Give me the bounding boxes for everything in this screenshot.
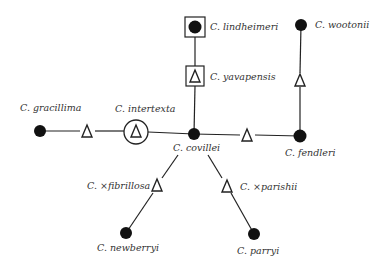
- node-newberryi: [120, 227, 132, 239]
- edge-fibrillosa-newberryi: [126, 193, 153, 233]
- node-parryi: [248, 228, 260, 240]
- node-gracillima: [34, 125, 46, 137]
- node-parishii: [222, 180, 232, 192]
- hybrid-delta-covillei-fendleri: [242, 129, 252, 141]
- node-yavapensis: [186, 66, 204, 86]
- edges: [40, 25, 301, 234]
- filled-circle-icon: [189, 21, 202, 34]
- node-lindheimeri: [185, 17, 205, 37]
- edge-wootonii-delta: [300, 25, 301, 73]
- label-yavapensis: C. yavapensis: [210, 72, 276, 82]
- edge-covillei-delta: [194, 134, 240, 135]
- node-intertexta: [124, 120, 148, 144]
- edge-parishii-parryi: [231, 193, 254, 234]
- edge-covillei-fibrillosa: [162, 155, 178, 178]
- hybrid-delta-gracillima-intertexta: [82, 125, 92, 137]
- species-network-diagram: C. lindheimeri C. yavapensis C. wootonii…: [0, 0, 374, 270]
- label-intertexta: C. intertexta: [115, 104, 175, 114]
- node-fibrillosa: [152, 179, 162, 191]
- network-graphic: [0, 0, 374, 270]
- label-parishii: C. ×parishii: [240, 182, 297, 192]
- label-parryi: C. parryi: [237, 246, 279, 256]
- node-covillei: [188, 128, 200, 140]
- node-wootonii: [295, 19, 307, 31]
- edge-covillei-parishii: [208, 155, 222, 178]
- label-fibrillosa: C. ×fibrillosa: [87, 181, 150, 191]
- edge-intertexta-covillei: [148, 132, 194, 134]
- label-covillei: C. covillei: [173, 143, 220, 153]
- edge-yavapensis-covillei: [194, 86, 195, 134]
- label-lindheimeri: C. lindheimeri: [210, 22, 278, 32]
- label-gracillima: C. gracillima: [20, 103, 81, 113]
- label-newberryi: C. newberryi: [97, 243, 159, 253]
- node-fendleri: [294, 130, 307, 143]
- hybrid-delta-wootonii-fendleri: [295, 74, 305, 86]
- label-wootonii: C. wootonii: [315, 20, 369, 30]
- label-fendleri: C. fendleri: [285, 148, 336, 158]
- edge-delta-fendleri: [255, 135, 300, 136]
